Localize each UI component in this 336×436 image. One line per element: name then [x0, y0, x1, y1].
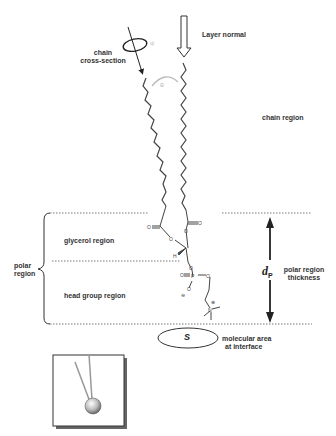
inset-model-icon: [53, 354, 127, 429]
layer-normal-arrow-icon: [177, 16, 191, 57]
rotation-symbol: ψ: [150, 40, 154, 46]
phospholipid-headgroup: [152, 206, 220, 320]
svg-text:O: O: [180, 272, 184, 278]
svg-text:⊕: ⊕: [211, 299, 215, 305]
polar-thickness-label-line2: thickness: [278, 274, 330, 282]
left-alkyl-chain: [143, 78, 166, 206]
polar-region-label-line1: polar: [14, 262, 31, 270]
molecular-area-symbol: S: [184, 332, 190, 342]
polar-region-brace: [38, 213, 50, 324]
polar-thickness-label-line1: polar region: [278, 266, 330, 274]
tilt-angle-arc-icon: Θ: [152, 77, 178, 88]
region-boundaries: [50, 213, 312, 324]
head-group-region-label: head group region: [64, 292, 125, 300]
atom-labels: O O O O H O P O O O ⊖ N ⊕: [147, 220, 215, 313]
svg-text:H: H: [173, 253, 177, 259]
svg-text:P: P: [191, 273, 195, 279]
glycerol-region-label: glycerol region: [64, 237, 114, 245]
chain-region-label: chain region: [262, 114, 304, 122]
dp-symbol-subscript: P: [268, 272, 273, 279]
chain-cross-section-label-line2: cross-section: [78, 57, 128, 65]
molecular-area-label-line1: molecular area: [222, 335, 271, 343]
svg-text:O: O: [147, 224, 151, 230]
molecular-area-label-line2: at interface: [225, 343, 262, 351]
svg-text:⊖: ⊖: [181, 292, 185, 298]
svg-text:Θ: Θ: [160, 82, 164, 88]
svg-text:N: N: [208, 307, 212, 313]
chain-cross-section-label-line1: chain: [78, 49, 128, 57]
right-alkyl-chain: [181, 63, 186, 210]
lipid-monolayer-diagram: ψ Θ: [0, 0, 336, 436]
svg-text:O: O: [189, 265, 193, 271]
svg-text:O: O: [206, 273, 210, 279]
svg-text:O: O: [187, 286, 191, 292]
svg-text:O: O: [169, 236, 173, 242]
svg-text:O: O: [184, 228, 188, 234]
dp-symbol: dP: [262, 264, 273, 279]
layer-normal-label: Layer normal: [202, 31, 246, 39]
svg-text:O: O: [198, 220, 202, 226]
polar-region-label-line2: region: [14, 270, 35, 278]
